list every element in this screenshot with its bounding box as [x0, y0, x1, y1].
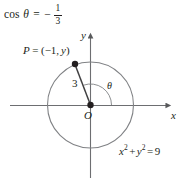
circle-eq-y-exponent: 2	[142, 143, 146, 152]
minus-sign: −	[44, 9, 51, 21]
point-label-P: P=(−1,y)	[23, 45, 70, 56]
close-paren: )	[66, 44, 70, 56]
fraction-denominator: 3	[54, 16, 61, 27]
circle-eq-value: 9	[155, 145, 161, 157]
circle-eq-plus: +	[129, 145, 135, 157]
point-name: P	[23, 44, 30, 56]
fraction-one-third: 1 3	[54, 4, 62, 26]
given-equation: cos θ = − 1 3	[4, 4, 62, 26]
math-figure: cos θ = − 1 3 P=(−1,y) 3 θ O x y x2+y2=9	[0, 0, 190, 183]
y-axis-label: y	[81, 30, 86, 41]
origin-point	[87, 102, 93, 108]
point-x-value: −1	[45, 44, 57, 56]
fraction-numerator: 1	[54, 4, 61, 15]
equals-sign: =	[33, 9, 40, 21]
x-axis-label: x	[171, 110, 176, 121]
circle-equation: x2+y2=9	[119, 146, 160, 157]
cos-function-name: cos	[4, 9, 20, 21]
point-equals: =	[32, 44, 38, 56]
figure-canvas	[0, 0, 190, 183]
angle-label-theta: θ	[107, 81, 112, 91]
point-comma: ,	[56, 44, 59, 56]
point-P	[72, 61, 78, 67]
circle-eq-equals: =	[147, 145, 153, 157]
origin-label: O	[84, 110, 92, 121]
circle-eq-x-exponent: 2	[124, 143, 128, 152]
radius-length-label: 3	[72, 78, 78, 89]
theta-symbol: θ	[23, 9, 29, 21]
